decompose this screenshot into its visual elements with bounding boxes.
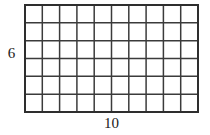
grid-cell	[25, 5, 42, 23]
grid-cell	[42, 76, 59, 94]
grid-cell	[146, 94, 163, 112]
grid-cell	[25, 94, 42, 112]
grid-cell	[146, 76, 163, 94]
grid-cell	[94, 94, 111, 112]
grid-cell	[112, 41, 129, 59]
grid-cell	[129, 76, 146, 94]
grid-cell	[77, 41, 94, 59]
grid-cell	[181, 76, 198, 94]
grid-cell	[77, 23, 94, 41]
grid-cell	[163, 94, 180, 112]
grid-cell	[129, 23, 146, 41]
grid-cell	[42, 41, 59, 59]
grid-cell	[25, 41, 42, 59]
grid-cell	[77, 59, 94, 77]
grid-cell	[25, 76, 42, 94]
grid-cell	[181, 94, 198, 112]
grid-cell	[77, 94, 94, 112]
grid-cell	[94, 41, 111, 59]
grid-cell	[129, 94, 146, 112]
unit-grid	[25, 5, 198, 112]
grid-cell	[163, 41, 180, 59]
grid-cell	[129, 59, 146, 77]
grid-cell	[60, 94, 77, 112]
grid-cell	[94, 23, 111, 41]
grid-cell	[163, 23, 180, 41]
unit-grid-svg	[25, 5, 198, 112]
grid-cell	[94, 5, 111, 23]
figure-root: 6 10	[0, 0, 210, 135]
grid-cell	[112, 23, 129, 41]
grid-cell	[77, 5, 94, 23]
grid-cell	[42, 5, 59, 23]
width-dimension-value: 10	[104, 116, 119, 131]
grid-cell	[60, 23, 77, 41]
grid-cell	[60, 76, 77, 94]
grid-cell	[181, 23, 198, 41]
grid-cell	[146, 41, 163, 59]
grid-cell	[146, 23, 163, 41]
grid-cell	[129, 41, 146, 59]
height-dimension-label: 6	[0, 0, 23, 107]
grid-cell	[25, 23, 42, 41]
grid-cell	[42, 59, 59, 77]
grid-cell	[94, 76, 111, 94]
grid-cell	[112, 59, 129, 77]
grid-cell	[112, 76, 129, 94]
grid-cell	[146, 59, 163, 77]
grid-cell	[42, 94, 59, 112]
grid-cell	[181, 5, 198, 23]
grid-cell	[77, 76, 94, 94]
grid-cell	[60, 59, 77, 77]
grid-cell	[129, 5, 146, 23]
grid-cell	[25, 59, 42, 77]
grid-cell	[60, 41, 77, 59]
grid-cell	[181, 59, 198, 77]
grid-cell	[163, 5, 180, 23]
grid-cell	[163, 76, 180, 94]
grid-cell	[42, 23, 59, 41]
width-dimension-label: 10	[25, 113, 198, 133]
grid-cell	[94, 59, 111, 77]
grid-cell	[163, 59, 180, 77]
grid-cell	[146, 5, 163, 23]
grid-cell	[60, 5, 77, 23]
grid-cell	[112, 5, 129, 23]
height-dimension-value: 6	[8, 46, 16, 61]
grid-cell	[112, 94, 129, 112]
grid-cell	[181, 41, 198, 59]
